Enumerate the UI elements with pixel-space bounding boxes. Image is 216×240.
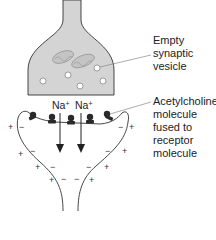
ion-charge: +	[88, 100, 92, 107]
label-line: synaptic	[153, 47, 193, 60]
svg-text:−: −	[74, 174, 79, 184]
ion-charge: +	[65, 100, 69, 107]
svg-text:+: +	[18, 149, 23, 159]
postsynaptic-membrane	[17, 111, 128, 211]
sodium-influx-arrow-icon	[77, 113, 85, 153]
svg-text:−: −	[118, 122, 123, 132]
sodium-ion-label: Na+	[75, 99, 93, 111]
vesicle-icon	[100, 78, 106, 84]
acetylcholine-leader-line	[110, 102, 151, 114]
vesicle-icon	[65, 72, 71, 78]
svg-text:+: +	[104, 162, 109, 172]
membrane-charges: +− −+ +− −+ +− −+ +− −+	[8, 122, 134, 185]
vesicle-icon	[77, 83, 83, 89]
svg-text:−: −	[19, 122, 24, 132]
acetylcholine-label: Acetylcholine molecule fused to receptor…	[153, 95, 216, 160]
svg-text:−: −	[105, 146, 110, 156]
sodium-influx-arrow-icon	[56, 113, 64, 153]
acetylcholine-receptor-icon	[48, 114, 56, 124]
svg-text:+: +	[122, 146, 127, 156]
empty-synaptic-vesicle-label: Empty synaptic vesicle	[153, 34, 193, 73]
svg-text:+: +	[89, 175, 94, 185]
label-line: Acetylcholine	[153, 95, 216, 108]
sodium-ion-label: Na+	[52, 99, 70, 111]
svg-text:−: −	[50, 162, 55, 172]
ion-symbol: Na	[75, 99, 88, 111]
svg-text:+: +	[49, 175, 54, 185]
label-line: molecule	[153, 108, 216, 121]
label-line: Empty	[153, 34, 193, 47]
vesicle-icon	[40, 78, 46, 84]
svg-text:−: −	[30, 146, 35, 156]
svg-text:+: +	[8, 122, 13, 132]
ion-symbol: Na	[52, 99, 65, 111]
acetylcholine-receptor-icon	[67, 115, 75, 125]
svg-text:−: −	[61, 174, 66, 184]
svg-text:+: +	[129, 122, 134, 132]
label-line: vesicle	[153, 60, 193, 73]
acetylcholine-receptor-icon	[86, 114, 94, 124]
vesicle-icon	[94, 65, 100, 71]
svg-text:−: −	[86, 162, 91, 172]
acetylcholine-receptor-icon	[104, 111, 114, 121]
label-line: receptor	[153, 134, 216, 147]
label-line: molecule	[153, 147, 216, 160]
label-line: fused to	[153, 121, 216, 134]
svg-text:+: +	[35, 162, 40, 172]
